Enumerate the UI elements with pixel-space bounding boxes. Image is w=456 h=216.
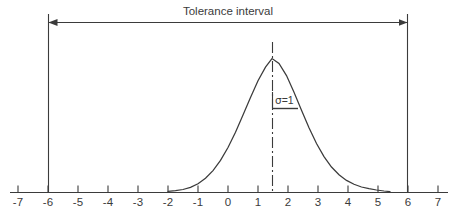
x-tick-label: 1 [255,197,262,209]
x-tick-label: -6 [43,197,53,209]
x-tick-label: 4 [345,197,352,209]
x-tick-label: 5 [375,197,382,209]
x-tick-label: 2 [285,197,292,209]
tolerance-interval-figure: -7 -6 -5 -4 -3 -2 -1 0 1 2 3 4 5 6 7 Tol… [0,0,456,216]
x-tick-label: -7 [13,197,23,209]
x-tick-label: -1 [193,197,203,209]
distribution-plot [0,0,456,216]
x-tick-label: -4 [103,197,113,209]
x-tick-label: 6 [405,197,412,209]
sigma-value: 1 [288,94,294,106]
sigma-annotation-label: σ=1 [275,95,294,106]
x-tick-label: 0 [225,197,232,209]
tolerance-interval-label: Tolerance interval [183,6,273,18]
normal-distribution-curve [168,59,390,192]
x-tick-label: -2 [163,197,173,209]
x-tick-label: 3 [315,197,322,209]
x-axis-ticks [18,186,438,193]
x-tick-label: 7 [435,197,442,209]
x-tick-label: -3 [133,197,143,209]
x-tick-label: -5 [73,197,83,209]
sigma-symbol: σ [275,94,282,106]
